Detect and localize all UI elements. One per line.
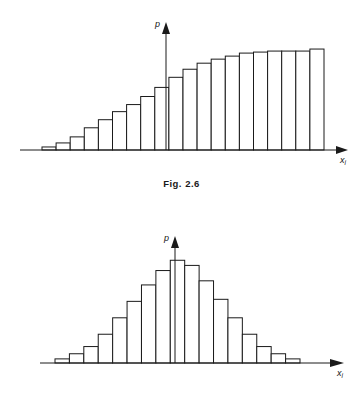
- histogram-bar: [155, 87, 169, 150]
- histogram-bar: [257, 347, 271, 363]
- figure-caption-2-6: Fig. 2.6: [0, 178, 363, 189]
- x-axis-label: xi: [337, 368, 343, 379]
- chart-2-7-plot: [0, 206, 363, 381]
- chart-2-7-svg: [0, 206, 363, 381]
- histogram-bar: [183, 69, 197, 150]
- chart-2-6-bars: [42, 49, 324, 150]
- histogram-bar: [56, 143, 70, 150]
- histogram-bar: [69, 354, 83, 363]
- histogram-bar: [211, 59, 225, 150]
- histogram-bar: [55, 359, 69, 363]
- histogram-bar: [228, 318, 242, 363]
- x-axis-arrowhead: [336, 146, 348, 154]
- histogram-bar: [271, 354, 285, 363]
- y-axis-label: p: [155, 19, 160, 29]
- histogram-bar: [98, 120, 112, 150]
- chart-2-7-bars: [55, 260, 300, 363]
- histogram-bar: [98, 334, 112, 363]
- histogram-bar: [214, 299, 228, 363]
- x-axis-label: xi: [340, 155, 346, 166]
- chart-2-6-svg: [0, 0, 363, 175]
- histogram-bar: [70, 137, 84, 150]
- histogram-bar: [113, 318, 127, 363]
- y-axis-arrowhead: [162, 22, 170, 34]
- histogram-bar: [141, 97, 155, 151]
- x-axis-arrowhead: [330, 359, 344, 367]
- histogram-bar: [113, 112, 127, 150]
- histogram-bar: [199, 281, 213, 363]
- figure-2-6: p xi Fig. 2.6: [0, 0, 363, 206]
- histogram-bar: [127, 301, 141, 363]
- histogram-bar: [254, 52, 268, 150]
- histogram-bar: [169, 77, 183, 150]
- histogram-bar: [84, 128, 98, 150]
- histogram-bar: [225, 56, 239, 150]
- histogram-bar: [296, 51, 310, 150]
- histogram-bar: [185, 265, 199, 363]
- histogram-bar: [156, 271, 170, 363]
- histogram-bar: [242, 334, 256, 363]
- histogram-bar: [141, 285, 155, 363]
- histogram-bar: [197, 63, 211, 150]
- chart-2-6-plot: [0, 0, 363, 175]
- histogram-bar: [84, 347, 98, 363]
- histogram-bar: [127, 105, 141, 150]
- histogram-bar: [268, 51, 282, 150]
- y-axis-label: p: [164, 233, 169, 243]
- histogram-bar: [282, 51, 296, 150]
- histogram-bar: [310, 49, 324, 150]
- y-axis-arrowhead: [171, 236, 179, 248]
- histogram-bar: [170, 260, 184, 363]
- figure-2-7: p xi Fig. 2.7: [0, 206, 363, 413]
- histogram-bar: [239, 53, 253, 150]
- histogram-bar: [286, 359, 300, 363]
